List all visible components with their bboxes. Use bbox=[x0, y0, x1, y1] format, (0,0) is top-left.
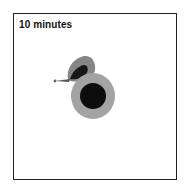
specimen-figure bbox=[0, 0, 188, 189]
tail bbox=[55, 79, 70, 82]
dark-core bbox=[80, 83, 106, 109]
